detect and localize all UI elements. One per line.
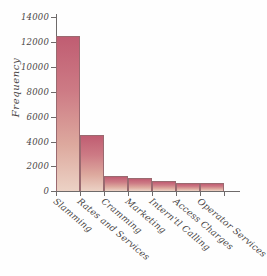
x-axis-line (56, 191, 240, 192)
y-tick-label-2000: 2000 (0, 161, 49, 171)
y-tick-14000 (51, 17, 56, 18)
y-tick-label-8000: 8000 (0, 87, 49, 97)
bar-marketing (128, 178, 152, 191)
y-tick-label-4000: 4000 (0, 137, 49, 147)
bar-chart: Frequency 14000 12000 10000 8000 6000 40… (0, 0, 267, 276)
bar-interntl-calling (152, 181, 176, 191)
bar-slamming (56, 36, 80, 191)
bar-operator-services (200, 183, 224, 191)
y-tick-label-6000: 6000 (0, 112, 49, 122)
plot-area: Frequency 14000 12000 10000 8000 6000 40… (0, 0, 267, 276)
y-tick-label-14000: 14000 (0, 12, 49, 22)
bar-rates-and-services (80, 135, 104, 191)
x-tick-7 (224, 192, 225, 196)
bar-cramming (104, 176, 128, 191)
y-tick-label-12000: 12000 (0, 37, 49, 47)
y-tick-label-0: 0 (0, 186, 49, 196)
y-tick-label-10000: 10000 (0, 62, 49, 72)
bar-access-charges (176, 183, 200, 191)
